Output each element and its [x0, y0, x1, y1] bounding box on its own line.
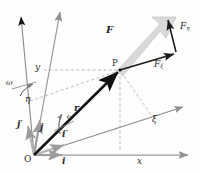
label-omega-mid: ω	[67, 113, 74, 121]
label-force-eta-sub: η	[186, 25, 189, 31]
label-unit-i: i	[62, 157, 65, 166]
label-origin-O: O	[24, 155, 31, 164]
label-unit-j: j	[40, 123, 43, 132]
label-y-axis: y	[35, 63, 40, 72]
label-omega-left: ω	[6, 79, 13, 87]
point-P-marker	[118, 68, 121, 71]
force-vector-F	[117, 17, 176, 76]
diagram-canvas	[0, 0, 200, 173]
label-eta-axis: η	[25, 95, 30, 104]
label-force-xi: Fξ	[154, 60, 163, 70]
label-position-vector-r: r	[74, 103, 79, 113]
label-unit-j-prime: j′	[17, 120, 23, 129]
label-force-eta: Fη	[180, 22, 190, 32]
label-point-P: P	[112, 59, 118, 68]
label-unit-i-prime: i′	[62, 130, 68, 139]
guide-P-to-xi	[121, 72, 152, 116]
label-x-axis: x	[137, 157, 142, 166]
omega-left-tick	[12, 82, 36, 89]
label-force-F: F	[106, 25, 113, 35]
label-xi-axis: ξ	[152, 115, 157, 124]
label-force-xi-sub: ξ	[160, 63, 163, 69]
vector-diagram-figure: F Fη Fξ P y x η ξ ω ω r i j i′ j′ O	[0, 0, 200, 173]
